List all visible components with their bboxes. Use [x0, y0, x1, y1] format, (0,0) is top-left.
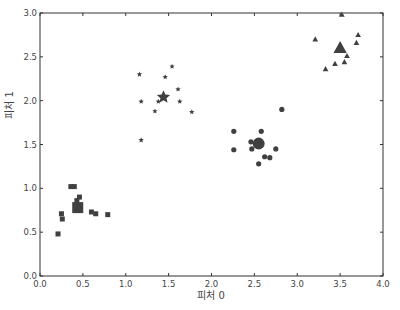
x-tick-labels: 0.00.51.01.52.02.53.03.54.0	[33, 279, 390, 289]
data-point-circle	[273, 146, 278, 151]
x-tick-label: 4.0	[376, 279, 390, 289]
data-point-square	[59, 211, 64, 216]
data-point-circle	[259, 129, 264, 134]
plot-area	[40, 13, 383, 276]
x-tick-label: 2.0	[205, 279, 219, 289]
data-point-square	[60, 217, 65, 222]
y-tick-label: 1.5	[23, 140, 37, 150]
x-tick-label: 1.0	[119, 279, 133, 289]
scatter-chart: 0.00.51.01.52.02.53.03.54.0 0.00.51.01.5…	[0, 0, 400, 310]
data-point-square	[72, 184, 77, 189]
y-axis-label: 피처 1	[4, 91, 15, 119]
data-point-circle	[256, 161, 261, 166]
data-point-circle	[267, 155, 272, 160]
y-tick-label: 3.0	[23, 8, 37, 18]
data-point-circle	[231, 129, 236, 134]
y-tick-label: 1.0	[23, 183, 37, 193]
x-axis-label: 피처 0	[197, 290, 225, 301]
data-point-square	[105, 212, 110, 217]
y-tick-label: 2.5	[23, 52, 37, 62]
y-tick-label: 2.0	[23, 96, 37, 106]
x-tick-label: 1.5	[162, 279, 176, 289]
data-point-square	[93, 211, 98, 216]
x-tick-label: 3.0	[290, 279, 304, 289]
x-tick-label: 0.5	[76, 279, 90, 289]
y-tick-labels: 0.00.51.01.52.02.53.0	[23, 8, 37, 281]
x-tick-label: 3.5	[333, 279, 347, 289]
data-point-circle	[231, 147, 236, 152]
y-tick-label: 0.0	[23, 271, 37, 281]
data-point-square	[56, 231, 61, 236]
data-point-circle	[279, 107, 284, 112]
data-point-circle	[249, 146, 254, 151]
cluster-center-circle	[253, 138, 265, 150]
data-point-circle	[262, 154, 267, 159]
x-tick-label: 2.5	[248, 279, 262, 289]
y-tick-label: 0.5	[23, 227, 37, 237]
data-point-square	[89, 210, 94, 215]
cluster-center-square	[72, 202, 83, 213]
